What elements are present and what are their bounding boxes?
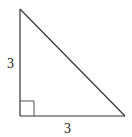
bottom-leg-label: 3: [64, 121, 71, 136]
right-angle-marker: [20, 101, 34, 116]
right-triangle: [20, 9, 125, 116]
triangle-diagram: 3 3: [0, 0, 132, 137]
left-leg-label: 3: [7, 56, 14, 71]
hypotenuse: [20, 9, 125, 116]
